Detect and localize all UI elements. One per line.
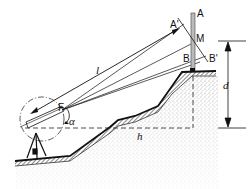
label-l: l — [96, 64, 99, 76]
label-A: A — [197, 8, 204, 19]
label-alpha: α — [69, 115, 75, 127]
ground-body — [15, 76, 218, 189]
label-B: B — [183, 53, 190, 64]
label-d: d — [223, 79, 229, 91]
label-B-prime: B' — [209, 53, 218, 64]
label-F: F — [58, 102, 64, 113]
label-h: h — [137, 130, 143, 142]
tacheometry-diagram: A A' M B B' F α l d h — [0, 0, 251, 189]
label-M: M — [196, 33, 204, 44]
label-A-prime: A' — [170, 19, 179, 30]
tripod-icon — [27, 133, 46, 158]
